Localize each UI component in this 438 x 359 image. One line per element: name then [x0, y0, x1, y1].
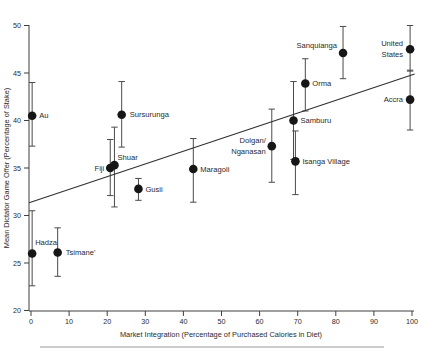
point-label-sanquianga: Sanquianga [296, 41, 337, 50]
data-point-accra [406, 95, 415, 104]
x-tick-label: 70 [294, 317, 302, 326]
x-tick-label: 60 [256, 317, 264, 326]
point-group-maragoli: Maragoli [189, 165, 230, 174]
y-tick-label: 40 [13, 116, 21, 125]
point-group-sursurunga: Sursurunga [117, 110, 169, 119]
data-point-tsimane [53, 248, 62, 257]
x-tick-label: 40 [179, 317, 187, 326]
data-point-shuar [110, 161, 119, 170]
point-label-sursurunga: Sursurunga [130, 110, 170, 119]
point-group-tsimane: Tsimane' [53, 248, 96, 257]
point-label-au: Au [39, 111, 48, 120]
point-label-united-states: States [382, 50, 404, 59]
point-label-dolgan-nganasan: Dolgan/ [240, 136, 267, 145]
y-axis-title: Mean Dictator Game Offer (Percentage of … [2, 88, 11, 248]
point-label-dolgan-nganasan: Nganasan [231, 147, 266, 156]
data-point-orma [301, 79, 310, 88]
point-label-tsimane: Tsimane' [66, 248, 96, 257]
data-point-united-states [406, 45, 415, 54]
x-tick-label: 50 [218, 317, 226, 326]
data-point-gusii [134, 185, 143, 194]
x-axis-title: Market Integration (Percentage of Purcha… [120, 330, 322, 339]
error-bar-hadza [29, 211, 35, 286]
dictator-game-scatter-plot: 202530354045500102030405060708090100AuHa… [0, 0, 438, 359]
point-label-gusii: Gusii [145, 185, 163, 194]
data-point-au [28, 111, 37, 120]
point-label-maragoli: Maragoli [200, 165, 229, 174]
y-tick-label: 20 [13, 306, 21, 315]
point-label-fiji: Fiji [95, 164, 105, 173]
x-tick-label: 80 [332, 317, 340, 326]
point-group-united-states: UnitedStates [381, 39, 414, 59]
x-tick-label: 30 [141, 317, 149, 326]
point-group-gusii: Gusii [134, 185, 163, 194]
point-label-accra: Accra [384, 95, 404, 104]
y-tick-label: 25 [13, 259, 21, 268]
data-point-sursurunga [117, 111, 126, 120]
point-label-shuar: Shuar [117, 153, 138, 162]
point-group-sanquianga: Sanquianga [296, 41, 347, 58]
figure-container: 202530354045500102030405060708090100AuHa… [0, 0, 438, 359]
point-group-dolgan-nganasan: Dolgan/Nganasan [231, 136, 276, 156]
x-tick-label: 90 [370, 317, 378, 326]
y-tick-label: 50 [13, 21, 21, 30]
data-point-samburu [289, 116, 298, 125]
error-bars [29, 26, 413, 286]
point-label-united-states: United [381, 39, 403, 48]
data-point-hadza [28, 249, 37, 258]
data-point-sanquianga [339, 49, 348, 58]
point-group-isanga-village: Isanga Village [291, 157, 350, 166]
plot-area: 202530354045500102030405060708090100AuHa… [13, 21, 418, 347]
x-tick-label: 0 [29, 317, 33, 326]
point-label-hadza: Hadza [35, 238, 58, 247]
x-tick-label: 20 [103, 317, 111, 326]
point-group-orma: Orma [301, 79, 332, 88]
x-tick-label: 10 [65, 317, 73, 326]
point-label-samburu: Samburu [301, 116, 332, 125]
y-tick-label: 45 [13, 69, 21, 78]
trend-line [29, 74, 415, 203]
point-group-accra: Accra [384, 95, 415, 104]
data-point-isanga-village [291, 157, 300, 166]
y-tick-label: 35 [13, 164, 21, 173]
data-point-dolgan-nganasan [267, 142, 276, 151]
point-group-au: Au [28, 111, 49, 120]
point-group-samburu: Samburu [289, 116, 331, 125]
point-label-orma: Orma [312, 79, 332, 88]
data-point-maragoli [189, 165, 198, 174]
point-label-isanga-village: Isanga Village [302, 157, 350, 166]
y-tick-label: 30 [13, 211, 21, 220]
x-tick-label: 100 [406, 317, 418, 326]
